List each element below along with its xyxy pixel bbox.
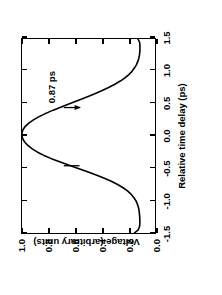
x-tick [22, 200, 27, 201]
x-tick [22, 36, 27, 37]
x-tick [150, 167, 155, 168]
x-tick [150, 69, 155, 70]
x-tick-label: -0.5 [161, 160, 172, 176]
y-tick [21, 228, 22, 233]
plot-area [21, 38, 156, 234]
x-tick-label: -1.0 [161, 193, 172, 209]
y-tick [156, 39, 157, 44]
x-tick-label: 0.0 [161, 129, 172, 142]
y-tick [102, 228, 103, 233]
y-tick [102, 39, 103, 44]
x-tick [150, 200, 155, 201]
x-tick [150, 232, 155, 233]
y-tick [75, 39, 76, 44]
x-tick [22, 102, 27, 103]
x-tick [22, 167, 27, 168]
fwhm-markers [64, 105, 81, 166]
voltage-autocorrelation-curve [22, 39, 155, 233]
x-tick-label: 1.0 [161, 64, 172, 77]
x-tick [22, 232, 27, 233]
y-tick [48, 39, 49, 44]
y-tick [129, 228, 130, 233]
x-tick [22, 69, 27, 70]
fwhm-annotation-label: 0.87 ps [46, 71, 57, 103]
x-tick [22, 134, 27, 135]
x-tick [150, 36, 155, 37]
x-tick [150, 134, 155, 135]
y-tick [21, 39, 22, 44]
x-axis-title: Relative time delay (ps) [176, 38, 187, 234]
x-tick-label: 0.5 [161, 97, 172, 110]
y-tick [129, 39, 130, 44]
x-tick-label: 1.5 [161, 31, 172, 44]
y-tick [48, 228, 49, 233]
y-axis-title: Voltage (arbitrary units) [0, 237, 185, 248]
fwhm-arrowhead [75, 105, 81, 110]
y-tick [75, 228, 76, 233]
y-tick [156, 228, 157, 233]
x-tick [150, 102, 155, 103]
rotated-figure: -1.5-1.0-0.50.00.51.01.50.00.20.40.60.81… [13, 16, 209, 278]
